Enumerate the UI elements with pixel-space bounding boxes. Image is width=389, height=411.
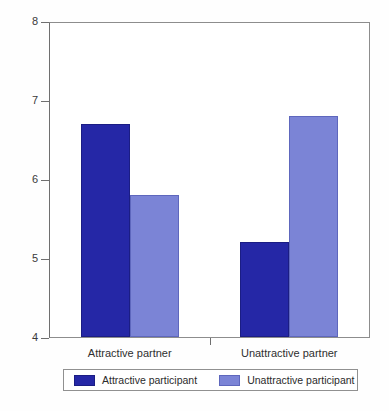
bars-layer	[50, 23, 369, 337]
y-tick-label: 7	[20, 95, 38, 106]
legend-item-unattractive-participant: Unattractive participant	[219, 370, 354, 390]
y-tick-label: 4	[20, 332, 38, 343]
y-tick-label: 8	[20, 16, 38, 27]
y-tick-label: 5	[20, 253, 38, 264]
x-tick-label: Unattractive partner	[209, 347, 369, 359]
bar	[81, 124, 130, 337]
legend: Attractive participant Unattractive part…	[63, 369, 358, 391]
bar-chart: Approach behaviour 87654 Attractive part…	[0, 0, 389, 411]
y-tick-mark	[41, 180, 49, 181]
x-tick-mark	[210, 338, 211, 345]
x-tick-label: Attractive partner	[50, 347, 210, 359]
y-tick-mark	[41, 22, 49, 23]
bar	[240, 242, 289, 337]
legend-swatch-icon	[219, 375, 240, 386]
y-tick-mark	[41, 338, 49, 339]
y-tick-mark	[41, 259, 49, 260]
legend-label: Unattractive participant	[247, 374, 354, 386]
legend-label: Attractive participant	[102, 374, 197, 386]
y-tick-mark	[41, 101, 49, 102]
plot-area	[49, 22, 370, 338]
bar	[289, 116, 338, 337]
bar	[130, 195, 179, 337]
y-tick-label: 6	[20, 174, 38, 185]
legend-item-attractive-participant: Attractive participant	[74, 370, 197, 390]
legend-swatch-icon	[74, 375, 95, 386]
